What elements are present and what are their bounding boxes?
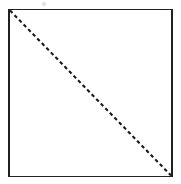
figure-canvas	[0, 0, 181, 184]
square-diagonal-diagram	[0, 0, 181, 184]
